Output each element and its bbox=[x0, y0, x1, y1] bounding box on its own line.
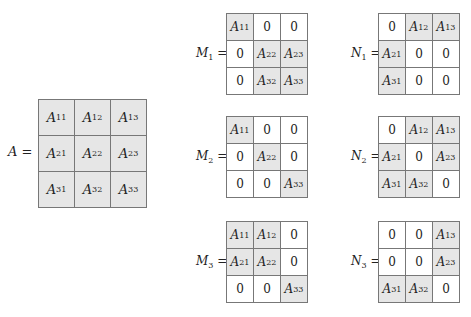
matrix-cell: 0 bbox=[227, 68, 253, 94]
matrix-cell: 0 bbox=[406, 222, 432, 248]
matrix-cell: 0 bbox=[379, 117, 405, 143]
matrix-cell: 0 bbox=[227, 171, 253, 197]
matrix-cell: A13 bbox=[433, 14, 459, 40]
matrix-cell: 0 bbox=[227, 144, 253, 170]
matrix-cell: A22 bbox=[75, 136, 110, 171]
matrix-M2: A11000A22000A33 bbox=[226, 116, 308, 198]
matrix-N3: 00A1300A23A31A320 bbox=[378, 221, 460, 303]
matrix-M1: A11000A22A230A32A33 bbox=[226, 13, 308, 95]
matrix-cell: A12 bbox=[406, 117, 432, 143]
matrix-cell: A12 bbox=[254, 222, 280, 248]
matrix-cell: A22 bbox=[254, 249, 280, 275]
matrix-cell: A33 bbox=[281, 276, 307, 302]
matrix-cell: A21 bbox=[39, 136, 74, 171]
matrix-A: A11A12A13A21A22A23A31A32A33 bbox=[38, 99, 147, 208]
matrix-cell: 0 bbox=[379, 222, 405, 248]
matrix-cell: 0 bbox=[433, 41, 459, 67]
matrix-cell: 0 bbox=[379, 249, 405, 275]
matrix-cell: 0 bbox=[406, 41, 432, 67]
matrix-cell: A23 bbox=[281, 41, 307, 67]
matrix-cell: A32 bbox=[406, 276, 432, 302]
matrix-cell: 0 bbox=[254, 276, 280, 302]
matrix-cell: A13 bbox=[111, 100, 146, 135]
matrix-cell: 0 bbox=[254, 14, 280, 40]
matrix-cell: A11 bbox=[227, 222, 253, 248]
label-N2: N2 = bbox=[351, 149, 380, 165]
matrix-cell: 0 bbox=[281, 222, 307, 248]
label-N1: N1 = bbox=[351, 46, 380, 62]
matrix-cell: A22 bbox=[254, 41, 280, 67]
matrix-cell: 0 bbox=[281, 14, 307, 40]
matrix-cell: 0 bbox=[433, 171, 459, 197]
matrix-N2: 0A12A13A210A23A31A320 bbox=[378, 116, 460, 198]
matrix-cell: A31 bbox=[379, 171, 405, 197]
matrix-cell: A31 bbox=[379, 276, 405, 302]
matrix-cell: 0 bbox=[406, 68, 432, 94]
matrix-cell: A11 bbox=[227, 117, 253, 143]
matrix-cell: A22 bbox=[254, 144, 280, 170]
matrix-cell: A23 bbox=[433, 249, 459, 275]
label-M2: M2 = bbox=[196, 149, 227, 165]
matrix-cell: A32 bbox=[254, 68, 280, 94]
matrix-cell: A33 bbox=[111, 172, 146, 207]
matrix-cell: 0 bbox=[406, 249, 432, 275]
matrix-cell: A11 bbox=[227, 14, 253, 40]
matrix-cell: 0 bbox=[227, 276, 253, 302]
matrix-cell: A32 bbox=[75, 172, 110, 207]
matrix-cell: 0 bbox=[379, 14, 405, 40]
matrix-cell: 0 bbox=[406, 144, 432, 170]
matrix-cell: A12 bbox=[75, 100, 110, 135]
matrix-cell: A33 bbox=[281, 68, 307, 94]
matrix-cell: 0 bbox=[254, 117, 280, 143]
matrix-cell: 0 bbox=[433, 276, 459, 302]
matrix-cell: 0 bbox=[281, 117, 307, 143]
matrix-cell: A23 bbox=[111, 136, 146, 171]
matrix-cell: A21 bbox=[379, 144, 405, 170]
matrix-cell: A33 bbox=[281, 171, 307, 197]
matrix-cell: A31 bbox=[379, 68, 405, 94]
label-M3: M3 = bbox=[196, 254, 227, 270]
matrix-cell: A12 bbox=[406, 14, 432, 40]
matrix-N1: 0A12A13A2100A3100 bbox=[378, 13, 460, 95]
matrix-M3: A11A120A21A22000A33 bbox=[226, 221, 308, 303]
matrix-cell: A23 bbox=[433, 144, 459, 170]
matrix-cell: 0 bbox=[433, 68, 459, 94]
matrix-cell: A13 bbox=[433, 222, 459, 248]
matrix-cell: 0 bbox=[227, 41, 253, 67]
matrix-cell: A21 bbox=[227, 249, 253, 275]
label-A: A = bbox=[8, 144, 32, 159]
label-M1: M1 = bbox=[196, 46, 227, 62]
matrix-cell: A13 bbox=[433, 117, 459, 143]
matrix-cell: 0 bbox=[281, 249, 307, 275]
matrix-cell: A31 bbox=[39, 172, 74, 207]
matrix-cell: A32 bbox=[406, 171, 432, 197]
matrix-cell: 0 bbox=[254, 171, 280, 197]
matrix-cell: A11 bbox=[39, 100, 74, 135]
matrix-cell: A21 bbox=[379, 41, 405, 67]
matrix-cell: 0 bbox=[281, 144, 307, 170]
label-N3: N3 = bbox=[351, 254, 380, 270]
